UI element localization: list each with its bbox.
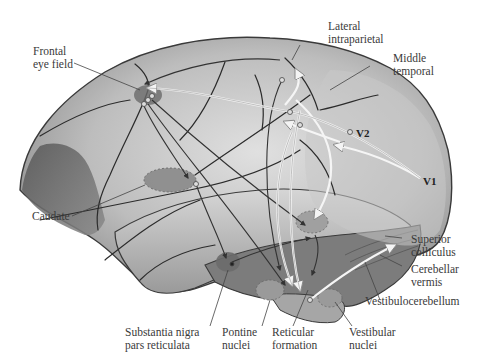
pontine-nuclei-region — [256, 280, 284, 300]
label-vestibulocerebellum: Vestibulocerebellum — [365, 295, 460, 308]
brain-diagram: Frontal eye field Lateral intraparietal … — [0, 0, 479, 364]
label-substantia-nigra: Substantia nigra pars reticulata — [125, 326, 199, 351]
label-cerebellar-vermis: Cerebellar vermis — [411, 263, 459, 288]
label-middle-temporal: Middle temporal — [393, 52, 434, 77]
label-v2: V2 — [356, 127, 369, 140]
label-lateral-intraparietal: Lateral intraparietal — [328, 20, 384, 45]
substantia-nigra-region — [216, 252, 240, 272]
label-pontine-nuclei: Pontine nuclei — [222, 326, 257, 351]
label-v1: V1 — [423, 175, 436, 188]
label-vestibular-nuclei: Vestibular nuclei — [349, 326, 396, 351]
label-caudate: Caudate — [32, 210, 70, 223]
caudate-region — [144, 168, 196, 192]
label-frontal-eye-field: Frontal eye field — [33, 45, 73, 70]
label-superior-colliculus: Superior colliculus — [411, 233, 456, 258]
label-reticular-formation: Reticular formation — [272, 326, 317, 351]
